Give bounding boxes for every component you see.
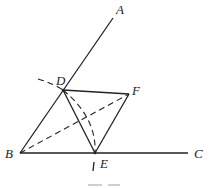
label-F: F (131, 83, 141, 98)
label-E: E (99, 156, 108, 171)
segment-DF (63, 90, 129, 94)
label-B: B (5, 146, 13, 161)
label-C: C (194, 146, 203, 161)
label-A: A (115, 2, 124, 17)
construction-tick-below-E (93, 162, 94, 171)
point-E-marker (94, 152, 97, 155)
geometry-diagram: A D F B E C (0, 0, 213, 188)
ray-BA (20, 18, 113, 153)
segment-DE (63, 90, 95, 153)
figure-caption-cut-off (88, 184, 132, 188)
label-D: D (55, 73, 66, 88)
point-D-marker (62, 89, 65, 92)
